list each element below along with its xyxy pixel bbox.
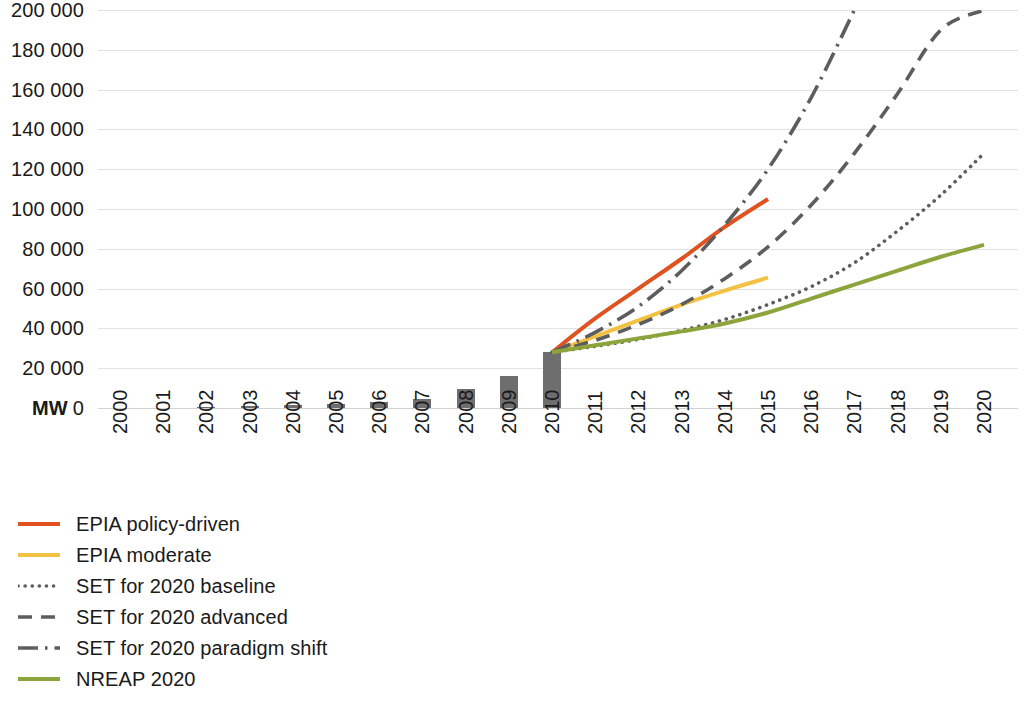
x-axis-tick-label: 2000 [109,412,131,434]
y-axis-tick-label: 100 000 [11,199,84,219]
legend-item-label: SET for 2020 advanced [76,606,288,628]
x-axis-tick-label: 2016 [800,412,822,434]
x-axis-tick-label: 2003 [239,412,261,434]
x-axis-tick-label: 2015 [757,412,779,434]
legend-item[interactable]: SET for 2020 paradigm shift [18,632,578,663]
y-axis-tick-label: 180 000 [11,40,84,60]
legend-item[interactable]: SET for 2020 advanced [18,601,578,632]
y-axis-tick-label: 120 000 [11,159,84,179]
legend-item-label: SET for 2020 baseline [76,575,276,597]
legend-line-swatch-icon [18,672,60,686]
y-axis-tick-value: 100 000 [11,198,84,220]
x-axis-tick-label: 2009 [498,412,520,434]
y-axis-tick-label: MW0 [32,398,84,418]
legend-line-swatch-icon [18,610,60,624]
legend-item-label: SET for 2020 paradigm shift [76,637,327,659]
x-axis-tick-label: 2011 [584,412,606,434]
legend-item-label: NREAP 2020 [76,668,196,690]
legend-item[interactable]: EPIA policy-driven [18,508,578,539]
x-axis-tick-label: 2012 [627,412,649,434]
series-line [552,245,984,352]
x-axis-tick-label: 2007 [411,412,433,434]
y-axis-tick-label: 40 000 [22,318,84,338]
y-axis-tick-label: 60 000 [22,279,84,299]
y-axis-tick-value: 40 000 [22,317,84,339]
x-axis-tick-label: 2013 [671,412,693,434]
y-axis-tick-value: 60 000 [22,278,84,300]
legend-item[interactable]: NREAP 2020 [18,663,578,694]
y-axis-tick-value: 80 000 [22,238,84,260]
x-axis-tick-label: 2005 [325,412,347,434]
legend-item[interactable]: SET for 2020 baseline [18,570,578,601]
y-axis-tick-label: 80 000 [22,239,84,259]
y-axis-tick-label: 200 000 [11,0,84,20]
y-axis-tick-value: 180 000 [11,39,84,61]
y-axis-tick-label: 140 000 [11,119,84,139]
y-axis-tick-value: 20 000 [22,357,84,379]
y-axis-tick-value: 160 000 [11,79,84,101]
x-axis-tick-label: 2020 [973,412,995,434]
chart-container: MW020 00040 00060 00080 000100 000120 00… [0,0,1028,712]
x-axis-tick-label: 2008 [455,412,477,434]
x-axis-tick-label: 2001 [152,412,174,434]
chart-legend: EPIA policy-drivenEPIA moderateSET for 2… [18,508,578,694]
x-axis-tick-label: 2002 [195,412,217,434]
x-axis-tick-label: 2006 [368,412,390,434]
x-axis-tick-label: 2004 [282,412,304,434]
y-axis-tick-label: 160 000 [11,80,84,100]
series-line [552,153,984,352]
y-axis: MW020 00040 00060 00080 000100 000120 00… [0,0,92,418]
series-layer [98,10,1018,408]
x-axis-tick-label: 2010 [541,412,563,434]
y-axis-tick-value: 0 [73,397,84,419]
y-axis-tick-label: 20 000 [22,358,84,378]
x-axis-tick-label: 2018 [887,412,909,434]
series-line [552,199,768,352]
legend-line-swatch-icon [18,579,60,593]
x-axis-tick-label: 2014 [714,412,736,434]
plot-area [98,10,1018,408]
legend-item-label: EPIA moderate [76,544,212,566]
y-axis-tick-value: 200 000 [11,0,84,21]
legend-line-swatch-icon [18,641,60,655]
legend-item-label: EPIA policy-driven [76,513,240,535]
x-axis-tick-label: 2017 [843,412,865,434]
y-axis-tick-value: 120 000 [11,158,84,180]
x-axis: 2000200120022003200420052006200720082009… [98,412,1018,492]
y-axis-unit-label: MW [32,397,68,419]
legend-line-swatch-icon [18,517,60,531]
legend-item[interactable]: EPIA moderate [18,539,578,570]
x-axis-tick-label: 2019 [930,412,952,434]
legend-line-swatch-icon [18,548,60,562]
y-axis-tick-value: 140 000 [11,118,84,140]
